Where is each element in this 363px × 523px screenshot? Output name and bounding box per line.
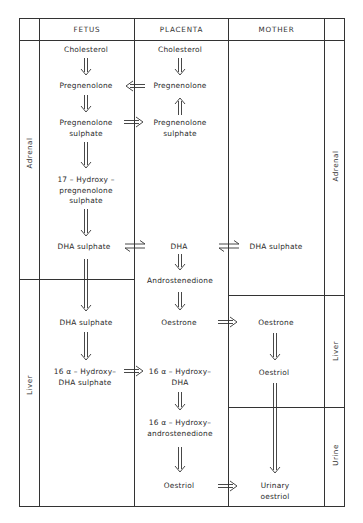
arrows-layer bbox=[0, 0, 363, 523]
double-arrow-left-icon bbox=[126, 81, 145, 91]
double-arrow-down-icon bbox=[81, 95, 91, 112]
double-arrow-down-icon bbox=[175, 58, 185, 75]
double-arrow-down-icon bbox=[81, 209, 91, 236]
double-arrow-down-icon bbox=[81, 142, 91, 168]
double-arrow-down-icon bbox=[270, 383, 280, 473]
double-arrow-down-icon bbox=[81, 58, 91, 75]
double-arrow-up-icon bbox=[175, 98, 185, 115]
double-arrow-right-icon bbox=[218, 317, 237, 327]
double-arrow-down-icon bbox=[175, 447, 185, 472]
double-arrow-down-icon bbox=[175, 392, 185, 410]
double-arrow-right-icon bbox=[124, 117, 143, 127]
equilibrium-arrow-icon bbox=[125, 241, 145, 252]
double-arrow-right-icon bbox=[218, 481, 237, 491]
double-arrow-down-icon bbox=[175, 254, 185, 270]
double-arrow-down-icon bbox=[81, 332, 91, 360]
equilibrium-arrow-icon bbox=[219, 241, 239, 252]
double-arrow-down-icon bbox=[270, 333, 280, 360]
double-arrow-right-icon bbox=[124, 366, 143, 376]
double-arrow-down-icon bbox=[81, 259, 91, 311]
double-arrow-down-icon bbox=[175, 292, 185, 310]
